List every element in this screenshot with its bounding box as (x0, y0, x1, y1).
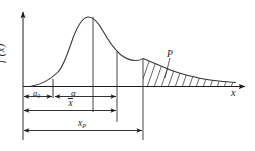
label-xp: xP (78, 119, 86, 129)
label-xp-subscript: P (82, 122, 86, 129)
density-curve (30, 17, 236, 87)
label-p-region: P (167, 50, 173, 60)
label-xbar-base: x (68, 99, 73, 109)
label-xbar: x (68, 99, 73, 109)
x-axis-label: x (231, 88, 236, 99)
y-axis-label: f (x) (0, 30, 7, 76)
figure-container: f (x) x a0 α x xP P (0, 0, 255, 151)
label-a0-subscript: 0 (37, 93, 40, 99)
distribution-diagram (0, 0, 255, 151)
label-a0: a0 (33, 89, 40, 99)
